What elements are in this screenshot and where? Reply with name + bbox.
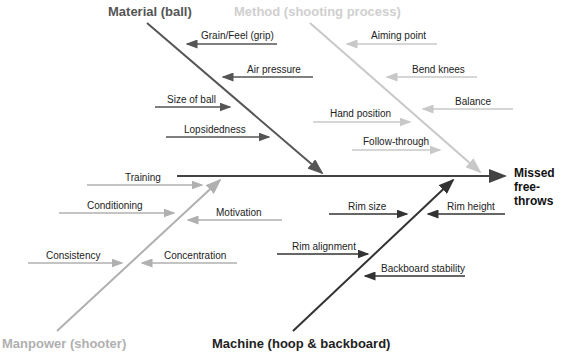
effect-line1: Missed bbox=[514, 166, 579, 180]
cause-aiming-point: Aiming point bbox=[371, 30, 426, 42]
category-manpower-label: Manpower (shooter) bbox=[2, 336, 126, 351]
cause-grain-feel: Grain/Feel (grip) bbox=[201, 30, 274, 42]
cause-training: Training bbox=[125, 172, 161, 184]
effect-label: Missed free-throws bbox=[514, 166, 579, 208]
cause-follow-through: Follow-through bbox=[363, 136, 429, 148]
cause-concentration: Concentration bbox=[164, 250, 226, 262]
cause-conditioning: Conditioning bbox=[87, 200, 143, 212]
cause-rim-size: Rim size bbox=[348, 201, 386, 213]
cause-motivation: Motivation bbox=[216, 207, 262, 219]
category-machine-label: Machine (hoop & backboard) bbox=[212, 336, 390, 351]
category-method-label: Method (shooting process) bbox=[234, 4, 401, 19]
cause-backboard-stability: Backboard stability bbox=[381, 263, 465, 275]
effect-line2: free-throws bbox=[514, 180, 579, 208]
cause-rim-alignment: Rim alignment bbox=[292, 241, 356, 253]
fishbone-lines bbox=[0, 0, 579, 359]
cause-size-of-ball: Size of ball bbox=[167, 94, 216, 106]
cause-air-pressure: Air pressure bbox=[247, 64, 301, 76]
cause-rim-height: Rim height bbox=[447, 201, 495, 213]
cause-balance: Balance bbox=[455, 96, 491, 108]
cause-bend-knees: Bend knees bbox=[412, 64, 465, 76]
category-material-label: Material (ball) bbox=[108, 4, 192, 19]
cause-lopsidedness: Lopsidedness bbox=[184, 124, 246, 136]
cause-hand-position: Hand position bbox=[330, 108, 391, 120]
cause-consistency: Consistency bbox=[46, 250, 100, 262]
